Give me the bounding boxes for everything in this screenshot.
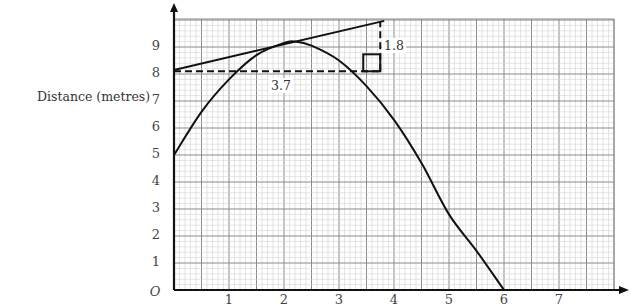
x-tick-1: 1 [219,292,239,307]
y-tick-4: 4 [146,173,166,188]
x-tick-2: 2 [274,292,294,307]
y-tick-7: 7 [146,92,166,107]
x-tick-6: 6 [494,292,514,307]
y-tick-2: 2 [146,227,166,242]
y-axis-title: Distance (metres) [37,89,150,104]
y-tick-8: 8 [146,65,166,80]
rise-label: 1.8 [382,38,406,53]
run-label: 3.7 [269,78,293,93]
x-tick-4: 4 [384,292,404,307]
graph-paper-grid [174,19,614,290]
distance-graph [0,0,631,308]
origin-label: O [145,284,165,299]
y-tick-9: 9 [146,38,166,53]
y-tick-6: 6 [146,119,166,134]
x-tick-7: 7 [549,292,569,307]
y-tick-5: 5 [146,146,166,161]
y-tick-3: 3 [146,200,166,215]
x-tick-5: 5 [439,292,459,307]
x-tick-3: 3 [329,292,349,307]
y-tick-1: 1 [146,254,166,269]
